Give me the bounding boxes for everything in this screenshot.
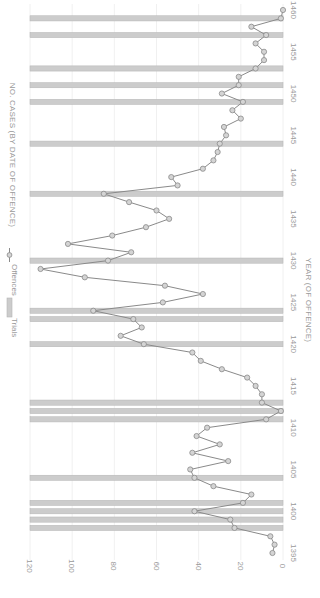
data-point-marker: [65, 241, 70, 246]
trial-bar: [30, 83, 283, 88]
data-point-marker: [230, 108, 235, 113]
data-point-marker: [236, 74, 241, 79]
data-point-marker: [249, 492, 254, 497]
trial-bar: [30, 316, 283, 321]
data-point-marker: [278, 408, 283, 413]
data-point-marker: [240, 99, 245, 104]
data-point-marker: [261, 58, 266, 63]
data-point-marker: [198, 358, 203, 363]
data-point-marker: [221, 124, 226, 129]
trial-bar: [30, 66, 283, 71]
data-point-marker: [264, 32, 269, 37]
data-point-marker: [211, 484, 216, 489]
data-point-marker: [261, 49, 266, 54]
data-point-marker: [192, 509, 197, 514]
year-tick-label: 1420: [289, 335, 298, 353]
data-point-marker: [192, 475, 197, 480]
year-tick-label: 1440: [289, 168, 298, 186]
data-point-marker: [131, 316, 136, 321]
cases-tick-label: 120: [25, 559, 34, 573]
cases-tick-label: 80: [109, 562, 118, 571]
year-axis-ticks: 1395140014051410141514201425143014351440…: [289, 1, 298, 562]
legend: Trials Offences: [7, 248, 19, 337]
data-point-marker: [217, 141, 222, 146]
data-point-marker: [105, 258, 110, 263]
data-point-marker: [118, 333, 123, 338]
offences-line: [41, 10, 284, 553]
data-point-marker: [232, 525, 237, 530]
data-point-marker: [82, 275, 87, 280]
data-point-marker: [223, 133, 228, 138]
data-point-marker: [238, 116, 243, 121]
year-tick-label: 1415: [289, 377, 298, 395]
cases-tick-label: 20: [236, 562, 245, 571]
cases-tick-label: 0: [278, 564, 287, 569]
cases-axis-ticks: 020406080100120: [25, 559, 287, 573]
data-point-marker: [91, 308, 96, 313]
data-point-marker: [162, 283, 167, 288]
cases-tick-label: 40: [194, 562, 203, 571]
legend-label-offences: Offences: [10, 264, 19, 296]
data-point-marker: [38, 266, 43, 271]
data-point-marker: [205, 425, 210, 430]
data-point-marker: [215, 149, 220, 154]
data-point-marker: [188, 467, 193, 472]
trial-bar: [30, 509, 283, 514]
data-point-marker: [110, 233, 115, 238]
year-tick-label: 1455: [289, 43, 298, 61]
trial-bar: [30, 141, 283, 146]
data-point-marker: [143, 225, 148, 230]
year-tick-label: 1425: [289, 293, 298, 311]
data-point-marker: [160, 300, 165, 305]
data-point-marker: [190, 350, 195, 355]
data-point-marker: [253, 383, 258, 388]
legend-label-trials: Trials: [10, 318, 19, 337]
data-point-marker: [190, 450, 195, 455]
year-tick-label: 1445: [289, 126, 298, 144]
data-point-marker: [253, 66, 258, 71]
trial-bar: [30, 32, 283, 37]
data-point-marker: [167, 216, 172, 221]
data-point-marker: [101, 191, 106, 196]
trial-bar: [30, 258, 283, 263]
trial-bar: [30, 16, 283, 21]
trial-bar: [30, 517, 283, 522]
data-point-marker: [211, 158, 216, 163]
data-point-marker: [264, 417, 269, 422]
year-tick-label: 1410: [289, 419, 298, 437]
data-point-marker: [280, 7, 285, 12]
data-point-marker: [154, 208, 159, 213]
offences-line-series: [38, 7, 286, 555]
trial-bar: [30, 475, 283, 480]
legend-item-trials: Trials: [7, 298, 19, 337]
data-point-marker: [219, 91, 224, 96]
data-point-marker: [249, 24, 254, 29]
data-point-marker: [139, 325, 144, 330]
data-point-marker: [278, 16, 283, 21]
cases-tick-label: 100: [67, 559, 76, 573]
trial-bar: [30, 308, 283, 313]
legend-item-offences: Offences: [7, 248, 19, 296]
data-point-marker: [219, 367, 224, 372]
data-point-marker: [270, 550, 275, 555]
data-point-marker: [129, 250, 134, 255]
y-axis-title: NO. CASES (BY DATE OF OFFENCE): [8, 83, 17, 228]
data-point-marker: [194, 433, 199, 438]
offences-marker-icon: [7, 253, 12, 258]
data-point-marker: [253, 41, 258, 46]
data-point-marker: [228, 517, 233, 522]
trial-bar: [30, 525, 283, 530]
year-tick-label: 1450: [289, 85, 298, 103]
data-point-marker: [259, 400, 264, 405]
trial-bar: [30, 400, 283, 405]
year-tick-label: 1395: [289, 544, 298, 562]
data-point-marker: [272, 542, 277, 547]
trial-bar: [30, 191, 283, 196]
data-point-marker: [236, 83, 241, 88]
data-point-marker: [126, 200, 131, 205]
data-point-marker: [217, 442, 222, 447]
data-point-marker: [175, 183, 180, 188]
trial-bar: [30, 408, 283, 413]
data-point-marker: [226, 459, 231, 464]
cases-tick-label: 60: [152, 562, 161, 571]
